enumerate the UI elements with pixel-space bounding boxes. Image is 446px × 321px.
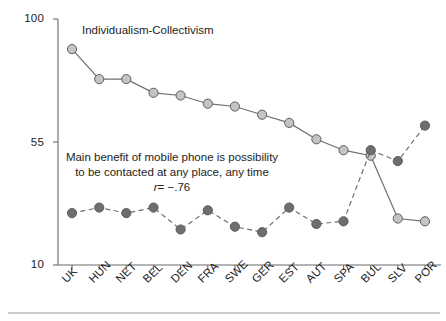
y-tick-label-55: 55 — [4, 136, 44, 148]
series-1-point — [122, 75, 131, 84]
series-1-point — [203, 99, 212, 108]
series-1-point — [420, 217, 429, 226]
series-1-label: Individualism-Collectivism — [82, 24, 214, 36]
series-2-point — [149, 203, 158, 212]
series-1-point — [312, 135, 321, 144]
series-2-point — [176, 225, 185, 234]
series-1-point — [393, 214, 402, 223]
series-1-point — [230, 102, 239, 111]
series-1-point — [339, 146, 348, 155]
series-2-point — [258, 228, 267, 237]
series-2-point — [203, 206, 212, 215]
correlation-value: = −.76 — [158, 181, 191, 193]
series-2-point — [312, 219, 321, 228]
annotation-line-2: to be contacted at any place, any time — [52, 165, 292, 180]
annotation-line-1: Main benefit of mobile phone is possibil… — [52, 150, 292, 165]
series-1-point — [176, 91, 185, 100]
series-2-point — [230, 222, 239, 231]
series-2-point — [420, 121, 429, 130]
series-2-annotation: Main benefit of mobile phone is possibil… — [52, 150, 292, 195]
series-2-point — [122, 209, 131, 218]
chart-figure: 100 55 10 Individualism-Collectivism Mai… — [0, 0, 446, 321]
series-1-point — [285, 118, 294, 127]
series-2-point — [67, 209, 76, 218]
series-2-point — [339, 217, 348, 226]
series-1-point — [258, 110, 267, 119]
series-2-point — [366, 146, 375, 155]
series-1-point — [149, 88, 158, 97]
series-1-point — [67, 45, 76, 54]
series-2-point — [95, 203, 104, 212]
series-1-point — [95, 75, 104, 84]
series-2-point — [285, 203, 294, 212]
annotation-correlation: r= −.76 — [52, 180, 292, 195]
series-2-point — [393, 157, 402, 166]
y-tick-label-100: 100 — [4, 12, 44, 24]
y-tick-label-10: 10 — [4, 258, 44, 270]
